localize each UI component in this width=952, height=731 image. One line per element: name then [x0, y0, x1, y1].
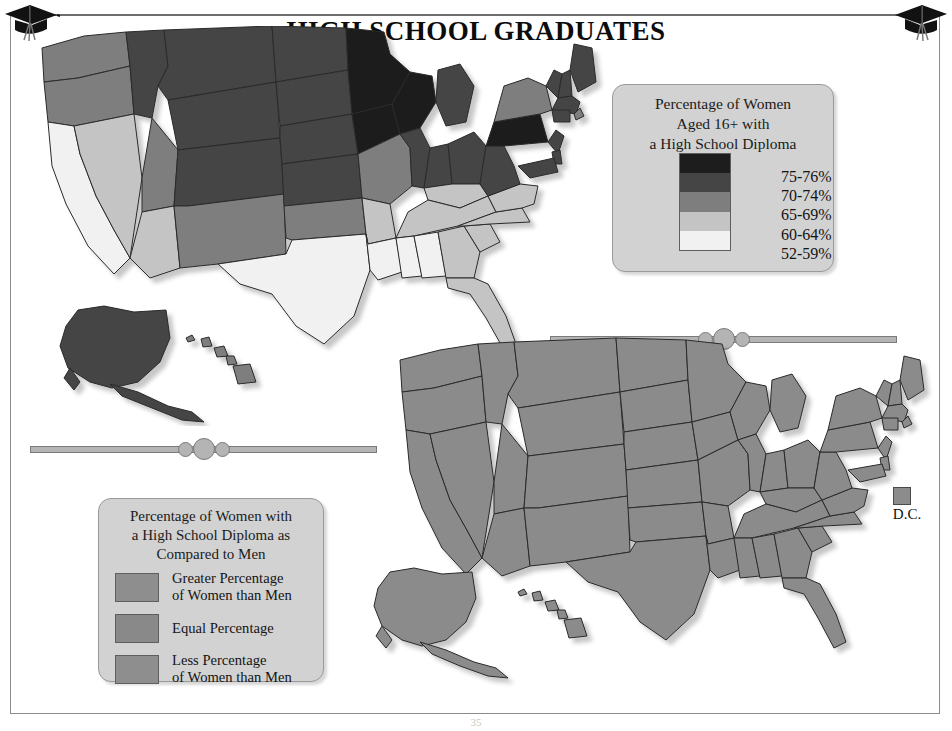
separator-dot-right [215, 442, 230, 457]
separator-dot-center [193, 438, 215, 460]
legend-label-75-76: 75-76% [781, 167, 832, 186]
legend-label-70-74: 70-74% [781, 186, 832, 205]
separator-dot-left [178, 442, 193, 457]
map-page: HIGH SCHOOL GRADUATES [0, 0, 952, 731]
legend-bottom-title: Percentage of Women with a High School D… [99, 499, 323, 565]
legend-bottom-title-line3: Compared to Men [107, 545, 315, 564]
legend-label-65-69: 65-69% [781, 205, 832, 224]
dc-inset-label: D.C. [884, 506, 930, 523]
legend-swatch-65-69 [680, 192, 730, 211]
legend-swatch-less [115, 655, 159, 684]
legend-bottom-title-line1: Percentage of Women with [107, 507, 315, 526]
legend-label-less: Less Percentage of Women than Men [172, 652, 292, 686]
legend-top-title: Percentage of Women Aged 16+ with a High… [613, 85, 833, 153]
legend-women-vs-men: Percentage of Women with a High School D… [98, 498, 324, 682]
legend-label-60-64: 60-64% [781, 225, 832, 244]
legend-bottom-title-line2: a High School Diploma as [107, 526, 315, 545]
page-number: 35 [0, 716, 952, 728]
legend-bottom-rows: Greater Percentage of Women than Men Equ… [115, 569, 339, 692]
legend-swatch-52-59 [680, 231, 730, 250]
legend-top-title-line3: a High School Diploma [621, 134, 825, 154]
legend-swatch-75-76 [680, 154, 730, 173]
legend-top-range-list: 75-76% 70-74% 65-69% 60-64% 52-59% [741, 167, 832, 263]
legend-row-greater: Greater Percentage of Women than Men [115, 569, 339, 605]
legend-percentage-women-diploma: Percentage of Women Aged 16+ with a High… [612, 84, 834, 272]
choropleth-map-women-vs-men [360, 330, 940, 710]
legend-row-equal: Equal Percentage [115, 610, 339, 646]
dc-inset-swatch [893, 487, 911, 505]
legend-label-equal: Equal Percentage [172, 620, 274, 637]
legend-top-title-line1: Percentage of Women [621, 94, 825, 114]
legend-swatch-60-64 [680, 212, 730, 231]
legend-top-swatch-stack [679, 153, 731, 251]
legend-label-52-59: 52-59% [781, 244, 832, 263]
legend-top-title-line2: Aged 16+ with [621, 114, 825, 134]
legend-row-less: Less Percentage of Women than Men [115, 651, 339, 687]
decorative-separator-left [30, 438, 377, 460]
legend-label-greater: Greater Percentage of Women than Men [172, 570, 292, 604]
legend-swatch-greater [115, 573, 159, 602]
legend-swatch-70-74 [680, 173, 730, 192]
legend-swatch-equal [115, 614, 159, 643]
